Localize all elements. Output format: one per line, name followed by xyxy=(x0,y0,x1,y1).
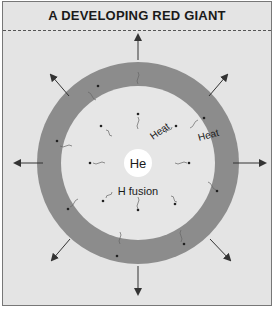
diagram-frame: A DEVELOPING RED GIANT xyxy=(2,1,272,306)
red-giant-diagram: He H fusion Heat Heat xyxy=(3,2,272,306)
shell-label: H fusion xyxy=(118,185,158,197)
core-label: He xyxy=(130,156,147,171)
